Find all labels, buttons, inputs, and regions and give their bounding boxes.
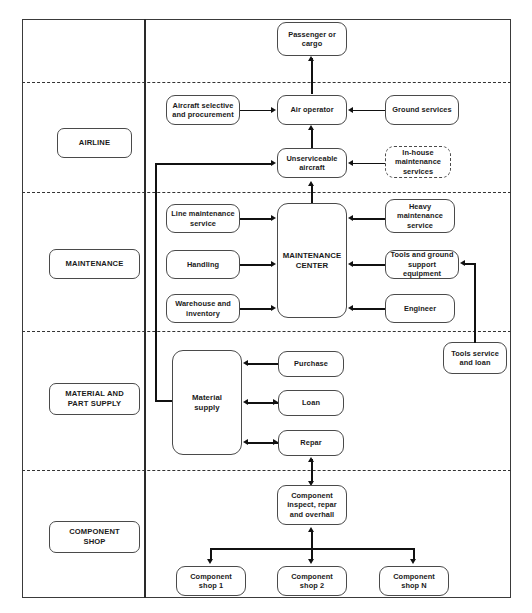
node-in-house-line3: services: [395, 167, 441, 176]
node-loan[interactable]: Loan: [278, 390, 344, 416]
node-repar[interactable]: Repar: [278, 430, 344, 456]
edge-unserviceable-to-air-operator-arrow: [308, 125, 314, 130]
lane-label-airline-text: AIRLINE: [79, 138, 110, 148]
node-repar-label: Repar: [300, 438, 321, 447]
node-unserviceable-aircraft-line2: aircraft: [286, 163, 337, 172]
lane-label-material-line1: MATERIAL AND: [65, 389, 124, 399]
node-heavy-maintenance-line2: maintenance: [397, 211, 443, 220]
node-heavy-maintenance-line3: service: [397, 221, 443, 230]
node-ground-services-label: Ground services: [392, 105, 451, 114]
node-unserviceable-aircraft-line1: Unserviceable: [286, 154, 337, 163]
node-component-inspect-line1: Component: [287, 491, 337, 500]
node-purchase-label: Purchase: [294, 359, 328, 368]
node-aircraft-selective-and-procurement[interactable]: Aircraft selective and procurement: [166, 95, 240, 125]
node-tools-and-ground-support-equipment[interactable]: Tools and ground support equipment: [385, 250, 459, 279]
edge-material-supply-to-unserviceable-hline-bottom: [155, 400, 173, 402]
edge-material-supply-to-unserviceable-hline-top: [155, 163, 272, 165]
node-component-shop-2[interactable]: Component shop 2: [277, 566, 347, 596]
node-passenger-or-cargo-line2: cargo: [288, 39, 336, 48]
edge-bus-to-shop-2-arrow: [308, 559, 314, 564]
node-tools-service-and-loan[interactable]: Tools service and loan: [443, 342, 507, 374]
lane-divider-airline-top: [22, 82, 511, 83]
edge-aircraft-selective-to-air-operator-arrow: [271, 107, 276, 113]
edge-purchase-to-material-supply-arrow: [243, 360, 248, 366]
edge-warehouse-to-center-arrow: [271, 305, 276, 311]
lane-label-component-line2: SHOP: [69, 537, 120, 547]
edge-material-supply-to-unserviceable-arrow: [271, 160, 276, 166]
node-maintenance-center[interactable]: MAINTENANCE CENTER: [277, 203, 347, 318]
node-handling[interactable]: Handling: [166, 250, 240, 279]
node-unserviceable-aircraft[interactable]: Unserviceable aircraft: [277, 148, 347, 178]
lane-divider-material-bottom: [22, 470, 511, 471]
node-air-operator[interactable]: Air operator: [277, 95, 347, 125]
node-warehouse-line1: Warehouse and: [175, 299, 231, 308]
node-heavy-maintenance-service[interactable]: Heavy maintenance service: [385, 199, 455, 233]
edge-tools-ground-to-center-line: [353, 264, 385, 266]
edge-engineer-to-center-arrow: [348, 305, 353, 311]
edge-tools-service-to-tools-ground-hline: [465, 263, 475, 265]
node-line-maintenance-line1: Line maintenance: [171, 209, 235, 218]
node-in-house-maintenance-services[interactable]: In-house maintenance services: [385, 146, 451, 178]
node-material-supply-line1: Material: [192, 393, 222, 403]
lane-label-airline: AIRLINE: [57, 128, 132, 158]
lane-label-maintenance: MAINTENANCE: [49, 249, 140, 279]
edge-ground-services-to-air-operator-line: [353, 110, 385, 112]
node-warehouse-and-inventory[interactable]: Warehouse and inventory: [166, 294, 240, 323]
node-component-shop-1-line1: Component: [190, 572, 232, 581]
edge-bus-to-shop-n-arrow: [410, 559, 416, 564]
edge-heavy-maintenance-to-center-line: [353, 218, 385, 220]
node-handling-label: Handling: [187, 260, 219, 269]
node-passenger-or-cargo[interactable]: Passenger or cargo: [277, 22, 347, 56]
node-heavy-maintenance-line1: Heavy: [397, 202, 443, 211]
node-component-inspect-repar-and-overhall[interactable]: Component inspect, repar and overhall: [277, 485, 347, 525]
edge-in-house-to-unserviceable-line: [353, 163, 385, 165]
lane-divider-airline-bottom: [22, 192, 511, 193]
node-maintenance-center-line1: MAINTENANCE: [283, 251, 341, 261]
node-component-shop-1-line2: shop 1: [190, 581, 232, 590]
node-in-house-line2: maintenance: [395, 157, 441, 166]
edge-ground-services-to-air-operator-arrow: [348, 107, 353, 113]
edge-aircraft-selective-to-air-operator-line: [240, 110, 272, 112]
node-component-shop-n[interactable]: Component shop N: [379, 566, 449, 596]
edge-material-supply-to-loan-arrow: [273, 399, 278, 405]
edge-heavy-maintenance-to-center-arrow: [348, 215, 353, 221]
edge-maintenance-center-to-unserviceable-line: [311, 184, 313, 204]
node-warehouse-line2: inventory: [175, 309, 231, 318]
node-component-shop-1[interactable]: Component shop 1: [176, 566, 246, 596]
node-air-operator-label: Air operator: [290, 105, 333, 114]
edge-handling-to-center-line: [240, 264, 272, 266]
node-tools-ground-line1: Tools and ground: [389, 250, 455, 259]
edge-material-supply-to-unserviceable-vline: [155, 163, 157, 401]
node-in-house-line1: In-house: [395, 148, 441, 157]
edge-material-supply-to-repar-arrow: [273, 439, 278, 445]
edge-tools-service-to-tools-ground-arrow: [460, 260, 465, 266]
node-component-shop-n-line2: shop N: [393, 581, 435, 590]
edge-bus-to-shop-1-arrow: [207, 559, 213, 564]
lane-label-component-line1: COMPONENT: [69, 527, 120, 537]
node-line-maintenance-line2: service: [171, 219, 235, 228]
node-engineer[interactable]: Engineer: [385, 294, 455, 323]
node-maintenance-center-line2: CENTER: [283, 261, 341, 271]
edge-tools-service-to-tools-ground-vline: [474, 263, 476, 343]
edge-maintenance-center-to-unserviceable-arrow: [308, 181, 314, 186]
edge-tools-ground-to-center-arrow: [348, 261, 353, 267]
edge-line-maintenance-to-center-line: [240, 218, 272, 220]
edge-engineer-to-center-line: [353, 308, 385, 310]
edge-air-operator-to-passenger-arrow: [308, 56, 314, 61]
edge-repar-to-material-supply-arrow: [243, 439, 248, 445]
node-line-maintenance-service[interactable]: Line maintenance service: [166, 204, 240, 233]
page-artifact-text: [8, 1, 13, 7]
lane-label-material-line2: PART SUPPLY: [65, 399, 124, 409]
node-component-inspect-line2: inspect, repar: [287, 500, 337, 509]
node-tools-ground-line2: support equipment: [389, 260, 455, 279]
edge-purchase-to-material-supply-line: [248, 363, 278, 365]
node-material-supply[interactable]: Material supply: [172, 350, 242, 455]
edge-air-operator-to-passenger-line: [311, 58, 313, 94]
node-ground-services[interactable]: Ground services: [385, 95, 459, 125]
edge-line-maintenance-to-center-arrow: [271, 215, 276, 221]
node-purchase[interactable]: Purchase: [278, 351, 344, 377]
node-component-inspect-line3: and overhall: [287, 510, 337, 519]
node-component-shop-2-line2: shop 2: [291, 581, 333, 590]
node-engineer-label: Engineer: [404, 304, 436, 313]
node-passenger-or-cargo-line1: Passenger or: [288, 30, 336, 39]
